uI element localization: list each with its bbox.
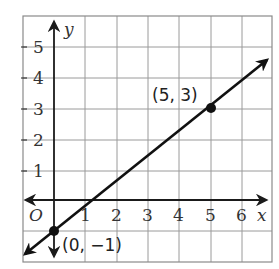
- coordinate-plane: 5 4 3 2 1 1 2 3 4 5 6 x y O (5, 3) (0, −…: [0, 0, 279, 269]
- point-5-3: [206, 103, 216, 113]
- svg-text:3: 3: [33, 99, 44, 119]
- point-label-5-3: (5, 3): [152, 85, 198, 105]
- point-0-neg1: [49, 226, 59, 236]
- x-axis-label: x: [257, 205, 267, 225]
- svg-text:2: 2: [111, 205, 122, 225]
- point-label-0-neg1: (0, −1): [62, 235, 122, 255]
- svg-text:2: 2: [33, 130, 44, 150]
- y-axis-label: y: [63, 19, 74, 39]
- svg-text:5: 5: [205, 205, 216, 225]
- x-tick-labels: 1 2 3 4 5 6: [80, 205, 247, 225]
- svg-text:6: 6: [236, 205, 247, 225]
- svg-text:3: 3: [142, 205, 153, 225]
- svg-text:4: 4: [173, 205, 184, 225]
- svg-text:5: 5: [33, 37, 44, 57]
- svg-text:1: 1: [33, 161, 44, 181]
- svg-text:4: 4: [33, 68, 44, 88]
- origin-label: O: [29, 205, 43, 225]
- y-tick-marks: [21, 47, 27, 171]
- y-tick-labels: 5 4 3 2 1: [33, 37, 44, 181]
